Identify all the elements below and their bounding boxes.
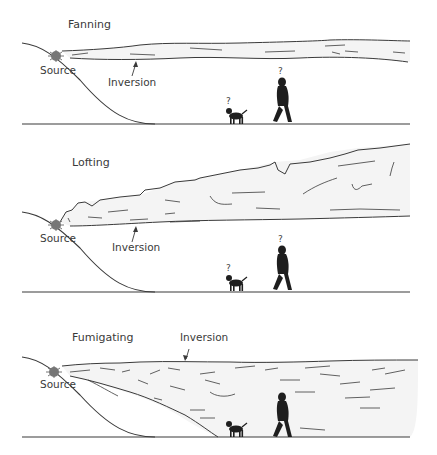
smoke-source-icon [46,366,62,378]
smoke-source-icon [48,219,64,231]
panel-title: Lofting [72,156,110,169]
arrow-icon [132,226,138,242]
plume [60,144,410,226]
question-mark-person: ? [278,234,283,244]
arrow-icon [183,349,189,361]
question-mark-dog: ? [226,263,231,273]
panel-lofting: Lofting Source Inversion ? ? [0,140,437,300]
panel-title: Fumigating [72,331,134,344]
question-mark-person: ? [278,66,283,76]
source-label: Source [40,64,76,76]
inversion-label: Inversion [180,331,228,343]
panel-fumigating: Fumigating Source Inversion [0,300,437,455]
person-silhouette-icon [273,78,292,123]
source-label: Source [40,232,76,244]
question-mark-dog: ? [226,96,231,106]
dog-silhouette-icon [226,108,247,124]
smoke-source-icon [48,50,64,62]
inversion-label: Inversion [112,241,160,253]
dog-silhouette-icon [226,275,247,291]
inversion-label: Inversion [108,76,156,88]
lofting-diagram [0,140,437,300]
panel-fanning: Fanning Source Inversion ? ? [0,0,437,140]
panel-title: Fanning [68,18,111,31]
arrow-icon [132,61,138,76]
person-silhouette-icon [273,246,292,291]
source-label: Source [40,378,76,390]
